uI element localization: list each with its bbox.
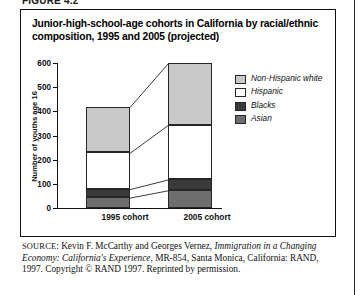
legend-swatch-asian	[235, 115, 246, 124]
chart-axes: 0 100 200 300 400 500	[57, 64, 222, 209]
legend-label-hispanic: Hispanic	[251, 87, 283, 97]
legend-swatch-non-hispanic-white	[235, 75, 246, 84]
y-tick-label-300: 300	[37, 131, 51, 140]
x-axis-label-2005: 2005 cohort	[139, 212, 275, 222]
bar-1995-asian	[86, 197, 130, 208]
source-text-1: : Kevin F. McCarthy and Georges Vernez,	[56, 241, 214, 251]
legend-swatch-hispanic	[235, 88, 246, 97]
bar-2005-asian	[168, 190, 212, 208]
source-label: SOURCE	[22, 242, 56, 251]
bar-1995-hispanic	[86, 152, 130, 188]
bar-1995-blacks	[86, 189, 130, 197]
legend-swatch-blacks	[235, 102, 246, 111]
y-tick-label-100: 100	[37, 179, 51, 188]
legend-item-blacks: Blacks	[235, 101, 331, 111]
chart-plot-area: Number of youths age 16 0 100 200 300	[21, 10, 337, 238]
legend-label-blacks: Blacks	[251, 101, 275, 111]
chart-legend: Non-Hispanic white Hispanic Blacks Asian	[235, 74, 331, 128]
legend-item-non-hispanic-white: Non-Hispanic white	[235, 74, 331, 84]
legend-item-hispanic: Hispanic	[235, 87, 331, 97]
bar-2005-hispanic	[168, 125, 212, 179]
legend-label-asian: Asian	[251, 114, 272, 124]
y-tick-label-200: 200	[37, 155, 51, 164]
bar-2005-blacks	[168, 179, 212, 190]
y-tick-label-500: 500	[37, 83, 51, 92]
source-note: SOURCE: Kevin F. McCarthy and Georges Ve…	[22, 241, 328, 276]
bar-2005-non-hispanic-white	[168, 63, 212, 125]
bar-1995-non-hispanic-white	[86, 107, 130, 153]
y-tick-label-600: 600	[37, 59, 51, 68]
figure-box: Junior-high-school-age cohorts in Califo…	[20, 9, 336, 237]
figure-number: FIGURE 4.2	[22, 0, 78, 4]
legend-item-asian: Asian	[235, 114, 331, 124]
page-right-rule	[354, 0, 355, 295]
legend-label-non-hispanic-white: Non-Hispanic white	[251, 74, 322, 84]
y-tick-label-400: 400	[37, 107, 51, 116]
y-tick-label-0: 0	[46, 204, 51, 213]
